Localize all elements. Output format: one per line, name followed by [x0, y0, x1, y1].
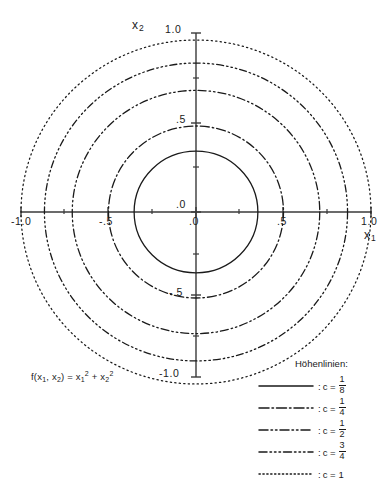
y-tick-label-05: .5: [176, 113, 186, 125]
legend-level-numerator: 1: [339, 375, 346, 386]
y-axis-label-sub: 2: [139, 23, 144, 33]
x-tick-label-neg1: -1.0: [11, 215, 32, 227]
formula-sub2: 2: [57, 376, 61, 383]
y-tick-label-zero: .0: [176, 198, 186, 210]
legend-colon: :: [318, 469, 321, 480]
legend-entry-label: :c =12: [318, 419, 346, 441]
y-tick-label-1: 1.0: [165, 23, 181, 35]
legend-line-swatch: [258, 403, 314, 413]
legend-c-equals: c =: [323, 447, 336, 458]
y-axis-label: x2: [132, 18, 143, 32]
legend-level-value: 1: [339, 469, 344, 480]
formula-plus: + x: [89, 371, 105, 382]
x-axis-label: x1: [364, 228, 375, 242]
legend-title: Höhenlinien:: [295, 358, 348, 369]
formula-eq: ) = x: [61, 371, 81, 382]
legend-entry-label: :c =34: [318, 441, 346, 463]
legend-entry-label: :c =1: [318, 463, 344, 485]
legend-row: :c =34: [258, 441, 388, 463]
x-tick-label-1: 1.0: [361, 215, 377, 227]
formula-fn: f(x: [31, 371, 42, 382]
legend-level-fraction: 34: [339, 441, 346, 461]
legend-level-fraction: 14: [339, 397, 346, 417]
legend-row: :c =14: [258, 397, 388, 419]
contour-plot-figure: -1.0 -.5 .0 .5 1.0 1.0 .5 .0 -.5 -1.0 x1…: [0, 0, 392, 495]
formula-sub4: 2: [105, 376, 109, 383]
legend-row: :c =18: [258, 375, 388, 397]
legend-line-swatch: [258, 469, 314, 479]
legend-level-fraction: 18: [339, 375, 346, 395]
function-formula: f(x1, x2) = x12 + x22: [31, 371, 114, 382]
legend-line-swatch: [258, 381, 314, 391]
legend-row: :c =12: [258, 419, 388, 441]
legend-level-denominator: 4: [339, 452, 346, 462]
legend-entry-label: :c =18: [318, 375, 346, 397]
legend-line-swatch: [258, 447, 314, 457]
legend-colon: :: [318, 403, 321, 414]
legend-level-numerator: 3: [339, 441, 346, 452]
legend-line-swatch: [258, 425, 314, 435]
legend: :c =18:c =14:c =12:c =34:c =1: [258, 375, 388, 485]
legend-c-equals: c =: [323, 403, 336, 414]
legend-c-equals: c =: [323, 469, 336, 480]
formula-comma: , x: [46, 371, 57, 382]
formula-sup3: 2: [85, 370, 89, 377]
legend-colon: :: [318, 425, 321, 436]
formula-sub3: 1: [81, 376, 85, 383]
legend-level-numerator: 1: [339, 397, 346, 408]
x-tick-label-05: .5: [277, 215, 287, 227]
legend-colon: :: [318, 381, 321, 392]
x-axis-label-text: x: [364, 228, 370, 242]
legend-level-denominator: 4: [339, 408, 346, 418]
legend-level-fraction: 12: [339, 419, 346, 439]
legend-level-denominator: 8: [339, 386, 346, 396]
axes-group: [21, 33, 371, 377]
y-axis-label-text: x: [132, 18, 138, 32]
legend-level-numerator: 1: [339, 419, 346, 430]
legend-colon: :: [318, 447, 321, 458]
y-tick-label-neg1: -1.0: [159, 367, 180, 379]
legend-c-equals: c =: [323, 425, 336, 436]
legend-level-denominator: 2: [339, 430, 346, 440]
formula-sub1: 1: [42, 376, 46, 383]
legend-row: :c =1: [258, 463, 388, 485]
x-tick-label-neg05: -.5: [99, 215, 113, 227]
legend-c-equals: c =: [323, 381, 336, 392]
formula-sup4: 2: [109, 370, 113, 377]
x-axis-label-sub: 1: [371, 233, 376, 243]
legend-entry-label: :c =14: [318, 397, 346, 419]
y-tick-label-neg05: -.5: [169, 286, 183, 298]
x-tick-label-zero: .0: [189, 215, 199, 227]
